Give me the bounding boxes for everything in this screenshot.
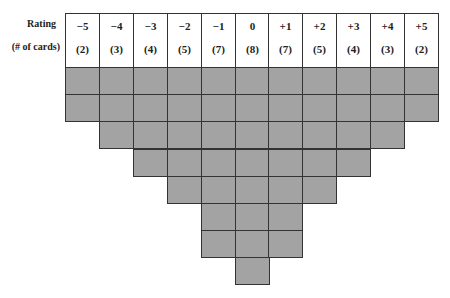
card-count: (7) <box>269 43 302 55</box>
card-count: (8) <box>236 43 269 55</box>
card-slot[interactable] <box>167 67 202 95</box>
card-count: (3) <box>100 43 133 55</box>
card-slot[interactable] <box>235 257 270 285</box>
card-slot[interactable] <box>336 149 371 177</box>
card-slot[interactable] <box>268 149 303 177</box>
card-count: (3) <box>371 43 404 55</box>
card-slot[interactable] <box>167 176 202 204</box>
card-slot[interactable] <box>201 149 236 177</box>
rating-value: +1 <box>269 20 302 32</box>
card-slot[interactable] <box>99 67 134 95</box>
rating-value: +2 <box>303 20 336 32</box>
card-slot[interactable] <box>336 94 371 122</box>
rating-column-header: −1(7) <box>201 13 236 68</box>
card-slot[interactable] <box>99 121 134 149</box>
card-slot[interactable] <box>404 67 439 95</box>
card-slot[interactable] <box>65 94 100 122</box>
card-slot[interactable] <box>268 176 303 204</box>
card-slot[interactable] <box>133 67 168 95</box>
card-slot[interactable] <box>302 149 337 177</box>
card-slot[interactable] <box>268 67 303 95</box>
rating-value: 0 <box>236 20 269 32</box>
rating-value: −1 <box>202 20 235 32</box>
card-slot[interactable] <box>201 121 236 149</box>
card-slot[interactable] <box>201 176 236 204</box>
rating-value: +5 <box>405 20 438 32</box>
card-slot[interactable] <box>302 121 337 149</box>
card-count: (4) <box>337 43 370 55</box>
rating-column-header: −5(2) <box>65 13 100 68</box>
card-slot[interactable] <box>201 203 236 231</box>
rating-column-header: +5(2) <box>404 13 439 68</box>
card-slot[interactable] <box>370 121 405 149</box>
card-slot[interactable] <box>167 149 202 177</box>
card-count: (5) <box>303 43 336 55</box>
card-slot[interactable] <box>235 149 270 177</box>
num-cards-label: (# of cards) <box>0 41 60 52</box>
card-slot[interactable] <box>235 230 270 258</box>
card-slot[interactable] <box>201 94 236 122</box>
card-slot[interactable] <box>336 121 371 149</box>
rating-value: −2 <box>168 20 201 32</box>
card-slot[interactable] <box>133 121 168 149</box>
card-slot[interactable] <box>268 121 303 149</box>
card-slot[interactable] <box>235 67 270 95</box>
rating-column-header: −2(5) <box>167 13 202 68</box>
card-slot[interactable] <box>235 94 270 122</box>
card-slot[interactable] <box>268 230 303 258</box>
rating-column-header: +2(5) <box>302 13 337 68</box>
rating-value: −4 <box>100 20 133 32</box>
card-count: (5) <box>168 43 201 55</box>
rating-value: −3 <box>134 20 167 32</box>
card-slot[interactable] <box>99 94 134 122</box>
card-slot[interactable] <box>235 203 270 231</box>
card-slot[interactable] <box>302 176 337 204</box>
card-count: (4) <box>134 43 167 55</box>
card-slot[interactable] <box>404 94 439 122</box>
card-slot[interactable] <box>336 67 371 95</box>
card-slot[interactable] <box>167 94 202 122</box>
card-slot[interactable] <box>302 67 337 95</box>
card-slot[interactable] <box>268 203 303 231</box>
rating-column-header: +1(7) <box>268 13 303 68</box>
rating-column-header: 0(8) <box>235 13 270 68</box>
rating-column-header: −3(4) <box>133 13 168 68</box>
rating-value: +4 <box>371 20 404 32</box>
card-slot[interactable] <box>235 176 270 204</box>
rating-column-header: −4(3) <box>99 13 134 68</box>
card-count: (2) <box>405 43 438 55</box>
rating-column-header: +3(4) <box>336 13 371 68</box>
card-slot[interactable] <box>235 121 270 149</box>
card-slot[interactable] <box>201 67 236 95</box>
card-count: (2) <box>66 43 99 55</box>
card-slot[interactable] <box>133 149 168 177</box>
card-slot[interactable] <box>370 94 405 122</box>
card-slot[interactable] <box>302 94 337 122</box>
card-slot[interactable] <box>133 94 168 122</box>
card-slot[interactable] <box>370 67 405 95</box>
card-slot[interactable] <box>65 67 100 95</box>
rating-value: +3 <box>337 20 370 32</box>
rating-column-header: +4(3) <box>370 13 405 68</box>
rating-value: −5 <box>66 20 99 32</box>
card-count: (7) <box>202 43 235 55</box>
card-slot[interactable] <box>268 94 303 122</box>
rating-label: Rating <box>4 18 56 29</box>
card-slot[interactable] <box>167 121 202 149</box>
card-slot[interactable] <box>201 230 236 258</box>
